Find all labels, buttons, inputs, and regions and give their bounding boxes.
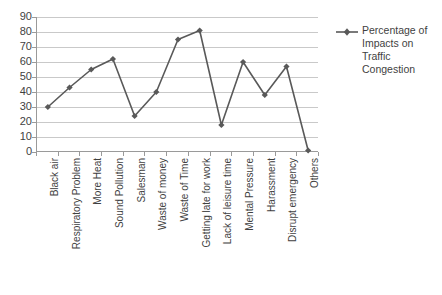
x-axis-category-text: Respiratory Problem [72, 158, 82, 249]
series-data-point [110, 56, 116, 62]
series-line [48, 31, 308, 151]
x-axis-category-label: Salesman [134, 158, 144, 202]
x-axis-category-label: Harassment [264, 158, 274, 212]
x-axis-category-text: Mental Pressure [245, 158, 255, 231]
y-tick-label: 40 [0, 86, 32, 97]
x-tick-mark [210, 152, 211, 156]
x-axis-category-text: Lack of leisure time [223, 158, 233, 244]
series-markers [45, 27, 312, 153]
x-axis-category-label: Lack of leisure time [220, 158, 230, 244]
x-tick-mark [188, 152, 189, 156]
x-tick-mark [231, 152, 232, 156]
legend-entry-label: Percentage of Impacts on Traffic Congest… [362, 24, 438, 76]
y-tick-label: 10 [0, 131, 32, 142]
x-axis-category-label: Getting late for work [199, 158, 209, 247]
x-axis-category-label: Others [307, 158, 317, 188]
x-axis-category-label: Sound Pollution [112, 158, 122, 228]
y-tick-label: 70 [0, 41, 32, 52]
x-axis-category-text: Waste of money [158, 158, 168, 230]
x-axis-category-label: Waste of money [155, 158, 165, 230]
x-axis-ticks [36, 152, 318, 157]
x-axis-category-label: Waste of Time [177, 158, 187, 222]
x-tick-mark [58, 152, 59, 156]
y-tick-label: 20 [0, 116, 32, 127]
x-tick-mark [296, 152, 297, 156]
x-axis-labels: Black airRespiratory ProblemMore HeatSou… [36, 158, 318, 283]
y-tick-label: 0 [0, 146, 32, 157]
x-axis-category-label: Disrupt emergency [285, 158, 295, 242]
x-axis-category-text: Harassment [267, 158, 277, 212]
chart-legend: Percentage of Impacts on Traffic Congest… [336, 24, 440, 76]
x-axis-category-text: Salesman [137, 158, 147, 202]
x-axis-category-text: Black air [50, 158, 60, 196]
x-tick-mark [123, 152, 124, 156]
x-axis-category-text: Getting late for work [202, 158, 212, 247]
y-tick-label: 60 [0, 56, 32, 67]
x-axis-category-label: Mental Pressure [242, 158, 252, 231]
x-axis-category-label: Respiratory Problem [69, 158, 79, 249]
x-tick-mark [318, 152, 319, 156]
x-axis-category-text: Waste of Time [180, 158, 190, 222]
x-axis-category-text: Others [310, 158, 320, 188]
y-tick-label: 30 [0, 101, 32, 112]
y-axis: 0102030405060708090 [0, 10, 32, 160]
plot-area [36, 17, 318, 152]
x-tick-mark [253, 152, 254, 156]
x-axis-category-text: More Heat [93, 158, 103, 205]
y-tick-label: 80 [0, 26, 32, 37]
x-tick-mark [101, 152, 102, 156]
y-tick-label: 50 [0, 71, 32, 82]
series-percentage-of-impacts [37, 17, 319, 152]
legend-line-diamond-marker [336, 25, 358, 39]
x-axis-category-label: More Heat [90, 158, 100, 205]
x-tick-mark [36, 152, 37, 156]
traffic-congestion-line-chart: 0102030405060708090 Black airRespiratory… [0, 0, 442, 295]
x-tick-mark [166, 152, 167, 156]
series-data-point [197, 27, 203, 33]
x-axis-category-text: Sound Pollution [115, 158, 125, 228]
series-data-point [175, 36, 181, 42]
x-tick-mark [79, 152, 80, 156]
x-tick-mark [144, 152, 145, 156]
x-axis-category-text: Disrupt emergency [288, 158, 298, 242]
series-data-point [218, 122, 224, 128]
x-tick-mark [275, 152, 276, 156]
x-axis-category-label: Black air [47, 158, 57, 196]
y-tick-label: 90 [0, 11, 32, 22]
